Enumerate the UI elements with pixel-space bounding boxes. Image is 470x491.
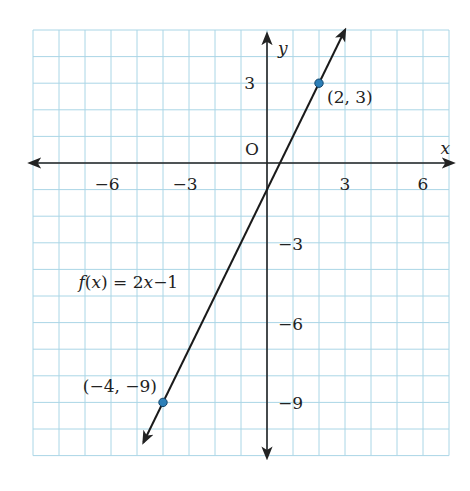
x-tick-label: −3 xyxy=(172,174,197,194)
x-tick-label: 3 xyxy=(340,174,351,194)
origin-label: O xyxy=(245,139,259,159)
y-axis-label: y xyxy=(277,38,288,58)
function-label-part: ( xyxy=(85,272,92,292)
data-point xyxy=(159,398,167,406)
x-axis-label: x xyxy=(440,138,450,158)
labels: −6−3363−3−6−9Oxy(2, 3)(−4, −9)f(x) = 2x−… xyxy=(77,38,451,413)
y-tick-label: −6 xyxy=(278,314,303,334)
function-label-part: ) = 2 xyxy=(101,272,144,292)
function-label-part: x xyxy=(91,272,101,292)
y-tick-label: 3 xyxy=(244,73,255,93)
x-tick-label: −6 xyxy=(94,174,119,194)
function-graph: −6−3363−3−6−9Oxy(2, 3)(−4, −9)f(x) = 2x−… xyxy=(0,0,470,491)
point-label: (2, 3) xyxy=(327,87,373,107)
y-tick-label: −3 xyxy=(278,234,303,254)
function-label-part: −1 xyxy=(153,272,178,292)
x-tick-label: 6 xyxy=(418,174,429,194)
function-label-part: x xyxy=(144,272,154,292)
function-label: f(x) = 2x−1 xyxy=(77,272,179,292)
point-label: (−4, −9) xyxy=(83,376,157,396)
y-tick-label: −9 xyxy=(278,393,303,413)
data-point xyxy=(315,79,323,87)
